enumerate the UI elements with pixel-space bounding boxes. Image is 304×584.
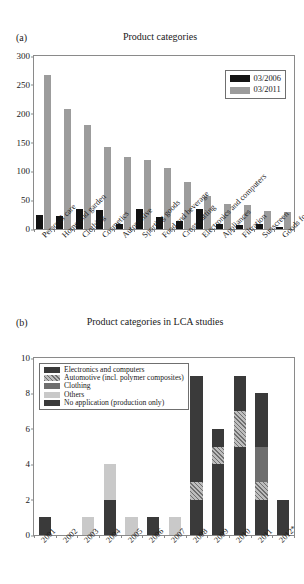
x-tick-1 bbox=[56, 535, 57, 538]
legend-item-0: 03/2006 bbox=[230, 73, 281, 84]
x-tick-8 bbox=[207, 535, 208, 538]
bar-personal-care-03-2011 bbox=[44, 75, 51, 229]
x-tick-6 bbox=[164, 535, 165, 538]
y-tick-6: 6 bbox=[26, 424, 35, 433]
x-tick-0 bbox=[34, 535, 35, 538]
x-tick-2 bbox=[77, 535, 78, 538]
legend-swatch-0 bbox=[230, 75, 250, 82]
legend-swatch-1 bbox=[230, 87, 250, 94]
bar-2008-seg-4 bbox=[190, 376, 203, 482]
bar-2010-seg-4 bbox=[234, 376, 247, 411]
bar-2008-seg-2 bbox=[190, 482, 203, 500]
y-tick-300: 300 bbox=[17, 52, 35, 61]
panel-a-title: Product categories bbox=[60, 31, 260, 42]
panel-b-label: (b) bbox=[16, 317, 28, 328]
y-tick-10: 10 bbox=[21, 354, 34, 363]
legend-label-4: No application (production only) bbox=[64, 399, 164, 407]
legend-swatch-3 bbox=[44, 392, 60, 398]
x-tick-7 bbox=[186, 535, 187, 538]
legend-item-1: 03/2011 bbox=[230, 84, 281, 95]
legend-swatch-2 bbox=[44, 383, 60, 389]
bar-2009-seg-0 bbox=[212, 464, 225, 535]
y-tick-8: 8 bbox=[26, 389, 35, 398]
x-tick-5 bbox=[142, 535, 143, 538]
x-tick-10 bbox=[251, 535, 252, 538]
chart-a-legend: 03/200603/2011 bbox=[225, 70, 286, 99]
y-tick-0: 0 bbox=[26, 531, 35, 540]
x-tick-11 bbox=[272, 535, 273, 538]
bar-2011-seg-2 bbox=[255, 482, 268, 500]
legend-swatch-1 bbox=[44, 375, 60, 381]
legend-swatch-4 bbox=[44, 400, 60, 406]
bar-2010-seg-0 bbox=[234, 447, 247, 536]
y-tick-250: 250 bbox=[17, 80, 35, 89]
x-tick-4 bbox=[121, 535, 122, 538]
y-tick-2: 2 bbox=[26, 495, 35, 504]
chart-b-plot-area: 0246810 Electronics and computersAutomot… bbox=[33, 357, 295, 536]
panel-b-title: Product categories in LCA studies bbox=[45, 316, 265, 327]
legend-label-1: 03/2011 bbox=[254, 84, 281, 95]
bar-personal-care-03-2006 bbox=[36, 215, 43, 229]
y-tick-150: 150 bbox=[17, 138, 35, 147]
bar-2009-seg-2 bbox=[212, 447, 225, 465]
y-tick-50: 50 bbox=[21, 196, 34, 205]
legend-item-4: No application (production only) bbox=[44, 399, 184, 407]
x-tick-12 bbox=[294, 535, 295, 538]
bar-2011-seg-3 bbox=[255, 447, 268, 482]
x-tick-9 bbox=[229, 535, 230, 538]
y-tick-0: 0 bbox=[26, 225, 35, 234]
y-tick-4: 4 bbox=[26, 460, 35, 469]
y-tick-200: 200 bbox=[17, 109, 35, 118]
legend-swatch-0 bbox=[44, 367, 60, 373]
x-tick-0 bbox=[34, 229, 35, 232]
bar-2011-seg-4 bbox=[255, 393, 268, 446]
legend-label-0: 03/2006 bbox=[254, 73, 281, 84]
panel-a-label: (a) bbox=[16, 32, 27, 43]
y-tick-100: 100 bbox=[17, 167, 35, 176]
chart-b-legend: Electronics and computersAutomotive (inc… bbox=[39, 363, 189, 410]
x-tick-3 bbox=[99, 535, 100, 538]
bar-2009-seg-4 bbox=[212, 429, 225, 447]
figure-a: (a) Product categories 05010015020025030… bbox=[0, 0, 304, 292]
bar-2004-seg-1 bbox=[104, 464, 117, 499]
bar-2010-seg-2 bbox=[234, 411, 247, 446]
